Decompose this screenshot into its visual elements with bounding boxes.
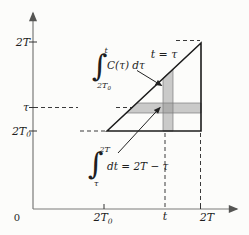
vertical-dt-strip [163, 69, 173, 131]
integral-horizontal-strip-expression: ∫ 2T τ dt = 2T − τ [88, 145, 169, 188]
integral-bottom-upper-limit: 2T [99, 145, 111, 154]
diagonal-label-t-equals-tau: t = τ [151, 48, 179, 61]
integral-bottom-body: dt = 2T − τ [107, 160, 169, 172]
figure-canvas: 2T τ 2T0 0 2T0 t 2T t = τ ∫ t 2T0 C(τ) d… [0, 0, 249, 235]
integral-top-lower-main: 2T [96, 81, 108, 90]
arrow-to-vertical-strip [137, 71, 162, 86]
integration-region-figure: 2T τ 2T0 0 2T0 t 2T t = τ ∫ t 2T0 C(τ) d… [0, 0, 249, 235]
integral-top-body: C(τ) dτ [107, 59, 145, 71]
integral-top-lower-sub: 0 [107, 85, 111, 91]
origin-label: 0 [14, 212, 20, 223]
y-label-2t: 2T [15, 36, 32, 49]
integral-bottom-lower-limit: τ [94, 179, 99, 188]
y-label-2t0-sub: 0 [26, 130, 31, 139]
x-label-t: t [163, 210, 168, 223]
x-label-2t0-sub: 0 [108, 217, 113, 226]
integral-top-lower-limit: 2T0 [96, 81, 111, 91]
y-label-2t0: 2T0 [11, 125, 31, 140]
integral-vertical-strip-expression: ∫ t 2T0 C(τ) dτ [92, 46, 145, 91]
x-label-2t0: 2T0 [92, 211, 112, 226]
y-label-tau: τ [23, 101, 30, 114]
integral-top-upper-limit: t [105, 46, 109, 55]
x-label-2t: 2T [199, 211, 216, 224]
